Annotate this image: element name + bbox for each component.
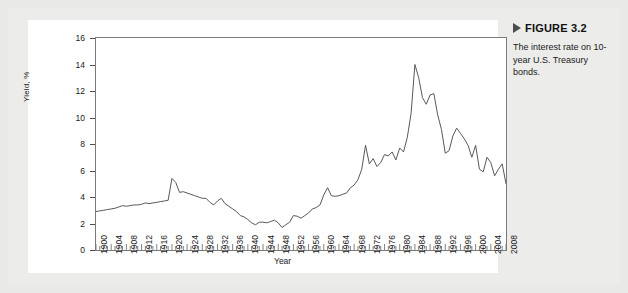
x-axis-tick-label: 1912 [145, 235, 153, 254]
x-axis-tick-label: 1904 [115, 235, 123, 254]
x-axis-tick-label: 1952 [297, 235, 305, 254]
x-axis-tick-label: 2004 [494, 235, 502, 254]
y-axis-tick-label: 12 [63, 87, 85, 95]
x-axis-tick-label: 1968 [358, 235, 366, 254]
x-axis-tick-label: 1948 [282, 235, 290, 254]
x-axis-tick-label: 1972 [373, 235, 381, 254]
x-axis-tick-label: 1936 [236, 235, 244, 254]
figure-card-inner: Yield, % 0246810121416 19001904190819121… [8, 8, 620, 285]
x-axis-tick-label: 1956 [312, 235, 320, 254]
yield-line-chart [96, 38, 506, 250]
x-axis-tick-label: 1964 [342, 235, 350, 254]
x-axis-tick-label: 1924 [191, 235, 199, 254]
x-axis-tick-label: 1960 [327, 235, 335, 254]
x-axis-tick-label: 1900 [100, 235, 108, 254]
figure-card: Yield, % 0246810121416 19001904190819121… [0, 0, 628, 293]
chart-panel: Yield, % 0246810121416 19001904190819121… [28, 20, 498, 273]
y-axis-tick-label: 10 [63, 114, 85, 122]
plot-area [95, 37, 507, 251]
x-axis-tick-label: 1996 [464, 235, 472, 254]
triangle-right-icon [513, 23, 521, 33]
x-axis-tick-label: 1940 [251, 235, 259, 254]
y-axis-tick-label: 16 [63, 34, 85, 42]
y-axis-tick-label: 0 [63, 246, 85, 254]
x-axis-tick-label: 1988 [434, 235, 442, 254]
x-axis-tick-label: 1908 [130, 235, 138, 254]
x-axis-tick-label: 1984 [418, 235, 426, 254]
y-axis-tick-label: 8 [63, 140, 85, 148]
figure-number-label: FIGURE 3.2 [525, 22, 587, 34]
figure-heading: FIGURE 3.2 [513, 22, 623, 34]
x-axis-tick-label: 1944 [267, 235, 275, 254]
x-axis-tick-label: 1932 [221, 235, 229, 254]
y-axis-title: Yield, % [22, 71, 31, 102]
x-axis-tick-label: 1976 [388, 235, 396, 254]
x-axis-title: Year [274, 256, 291, 266]
x-axis-tick-label: 1928 [206, 235, 214, 254]
y-axis-tick-label: 2 [63, 220, 85, 228]
figure-caption-text: The interest rate on 10-year U.S. Treasu… [513, 41, 617, 79]
x-axis-tick-label: 2008 [510, 235, 518, 254]
figure-caption-panel: FIGURE 3.2 The interest rate on 10-year … [513, 22, 623, 79]
x-axis-tick-label: 1916 [160, 235, 168, 254]
x-axis-tick-label: 1920 [175, 235, 183, 254]
y-axis-tick-label: 14 [63, 61, 85, 69]
y-axis-tick-label: 6 [63, 167, 85, 175]
x-axis-tick-label: 1992 [449, 235, 457, 254]
y-axis-tick-label: 4 [63, 193, 85, 201]
x-axis-tick-label: 1980 [403, 235, 411, 254]
x-axis-tick-label: 2000 [479, 235, 487, 254]
yield-series-line [96, 65, 506, 228]
